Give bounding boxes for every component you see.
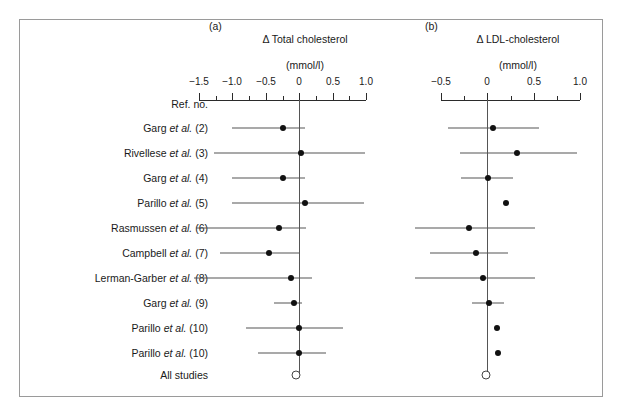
x-tick-minor — [249, 96, 250, 100]
study-etal: et al. — [164, 347, 187, 359]
x-tick-label: −0.5 — [421, 76, 461, 87]
x-tick-minor — [216, 96, 217, 100]
study-label-row-5: Rasmussen et al. (6) — [111, 222, 208, 234]
estimate-marker — [503, 200, 509, 206]
study-label-row-1: Garg et al. (2) — [143, 122, 208, 134]
confidence-interval-bar — [232, 178, 305, 179]
panel-b-tag: (b) — [425, 20, 438, 32]
confidence-interval-bar — [415, 278, 535, 279]
x-tick-minor — [316, 96, 317, 100]
study-ref: (7) — [195, 247, 208, 259]
zero-reference-line — [487, 100, 488, 375]
x-tick-major — [580, 93, 581, 100]
study-label-row-6: Campbell et al. (7) — [122, 247, 208, 259]
study-ref: (3) — [195, 147, 208, 159]
x-tick-major — [441, 93, 442, 100]
study-name: Lerman-Garber — [95, 272, 167, 284]
estimate-marker — [280, 125, 286, 131]
confidence-interval-bar — [274, 303, 302, 304]
panel-a-title-text: Δ Total cholesterol — [262, 33, 347, 45]
study-name: Rivellese — [124, 147, 167, 159]
confidence-interval-bar — [232, 128, 305, 129]
study-etal: et al. — [169, 297, 192, 309]
x-tick-major — [366, 93, 367, 100]
estimate-marker — [486, 300, 492, 306]
x-tick-major — [333, 93, 334, 100]
x-tick-major — [487, 93, 488, 100]
estimate-marker — [266, 250, 272, 256]
estimate-marker — [288, 275, 294, 281]
estimate-marker — [494, 325, 500, 331]
confidence-interval-bar — [415, 228, 535, 229]
estimate-marker — [473, 250, 479, 256]
study-name: Garg — [143, 172, 166, 184]
study-etal: et al. — [164, 322, 187, 334]
study-label-row-10: Parillo et al. (10) — [132, 347, 208, 359]
panel-a-tag: (a) — [209, 20, 222, 32]
study-name: Parillo — [137, 197, 166, 209]
study-name: Garg — [143, 297, 166, 309]
estimate-marker — [466, 225, 472, 231]
study-etal: et al. — [169, 172, 192, 184]
confidence-interval-bar — [196, 228, 306, 229]
x-tick-major — [232, 93, 233, 100]
x-tick-major — [266, 93, 267, 100]
zero-reference-line — [299, 100, 300, 375]
study-ref: (10) — [189, 322, 208, 334]
study-ref: (5) — [195, 197, 208, 209]
x-tick-label: 0 — [467, 76, 507, 87]
x-tick-label: 0.5 — [514, 76, 554, 87]
study-etal: et al. — [169, 247, 192, 259]
confidence-interval-bar — [214, 153, 365, 154]
study-ref: (10) — [189, 347, 208, 359]
study-etal: et al. — [169, 147, 192, 159]
confidence-interval-bar — [430, 253, 508, 254]
x-tick-minor — [464, 96, 465, 100]
confidence-interval-bar — [194, 278, 312, 279]
study-etal: et al. — [169, 122, 192, 134]
estimate-marker — [296, 325, 302, 331]
study-etal: et al. — [169, 197, 192, 209]
confidence-interval-bar — [232, 203, 364, 204]
summary-estimate-marker — [292, 371, 301, 380]
study-label-row-7: Lerman-Garber et al. (8) — [95, 272, 208, 284]
estimate-marker — [514, 150, 520, 156]
estimate-marker — [276, 225, 282, 231]
panel-a-title: Δ Total cholesterol (mmol/l) — [232, 20, 378, 72]
x-axis-line — [441, 100, 580, 101]
x-tick-minor — [349, 96, 350, 100]
confidence-interval-bar — [220, 253, 299, 254]
study-label-column: Ref. no. Garg et al. (2)Rivellese et al.… — [28, 0, 208, 417]
x-tick-label: 1.0 — [346, 76, 386, 87]
summary-estimate-marker — [482, 371, 491, 380]
estimate-marker — [302, 200, 308, 206]
study-name: Parillo — [132, 322, 161, 334]
x-tick-minor — [283, 96, 284, 100]
estimate-marker — [490, 125, 496, 131]
study-label-row-4: Parillo et al. (5) — [137, 197, 208, 209]
confidence-interval-bar — [246, 328, 343, 329]
panel-b-title-text: Δ LDL-cholesterol — [477, 33, 560, 45]
study-name: Campbell — [122, 247, 166, 259]
study-label-row-9: Parillo et al. (10) — [132, 322, 208, 334]
study-label-row-2: Rivellese et al. (3) — [124, 147, 208, 159]
estimate-marker — [280, 175, 286, 181]
x-axis-line — [199, 100, 366, 101]
study-label-row-3: Garg et al. (4) — [143, 172, 208, 184]
estimate-marker — [296, 350, 302, 356]
study-ref: (4) — [195, 172, 208, 184]
study-ref: (2) — [195, 122, 208, 134]
figure-canvas: (a) Δ Total cholesterol (mmol/l) (b) Δ L… — [0, 0, 623, 417]
x-tick-minor — [511, 96, 512, 100]
panel-b-title: Δ LDL-cholesterol (mmol/l) — [445, 20, 591, 72]
study-etal: et al. — [169, 272, 192, 284]
x-tick-major — [299, 93, 300, 100]
estimate-marker — [291, 300, 297, 306]
estimate-marker — [485, 175, 491, 181]
estimate-marker — [495, 350, 501, 356]
study-ref: (9) — [195, 297, 208, 309]
confidence-interval-bar — [258, 353, 326, 354]
panel-b-units: (mmol/l) — [499, 59, 537, 71]
x-tick-label: 1.0 — [560, 76, 600, 87]
estimate-marker — [480, 275, 486, 281]
